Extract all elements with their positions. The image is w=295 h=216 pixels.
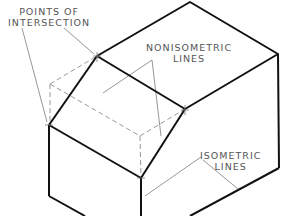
label-isometric-lines: ISOMETRIC LINES: [200, 150, 261, 172]
label-line: LINES: [200, 161, 261, 172]
label-line: LINES: [146, 53, 232, 64]
isometric-figure: [0, 0, 295, 216]
label-line: INTERSECTION: [8, 17, 90, 28]
intersection-marks: [45, 52, 189, 178]
visible-edges: [49, 2, 279, 216]
hidden-edges: [50, 56, 185, 178]
label-line: POINTS OF: [8, 6, 90, 17]
label-points-of-intersection: POINTS OF INTERSECTION: [8, 6, 90, 28]
label-line: NONISOMETRIC: [146, 42, 232, 53]
label-nonisometric-lines: NONISOMETRIC LINES: [146, 42, 232, 64]
label-line: ISOMETRIC: [200, 150, 261, 161]
